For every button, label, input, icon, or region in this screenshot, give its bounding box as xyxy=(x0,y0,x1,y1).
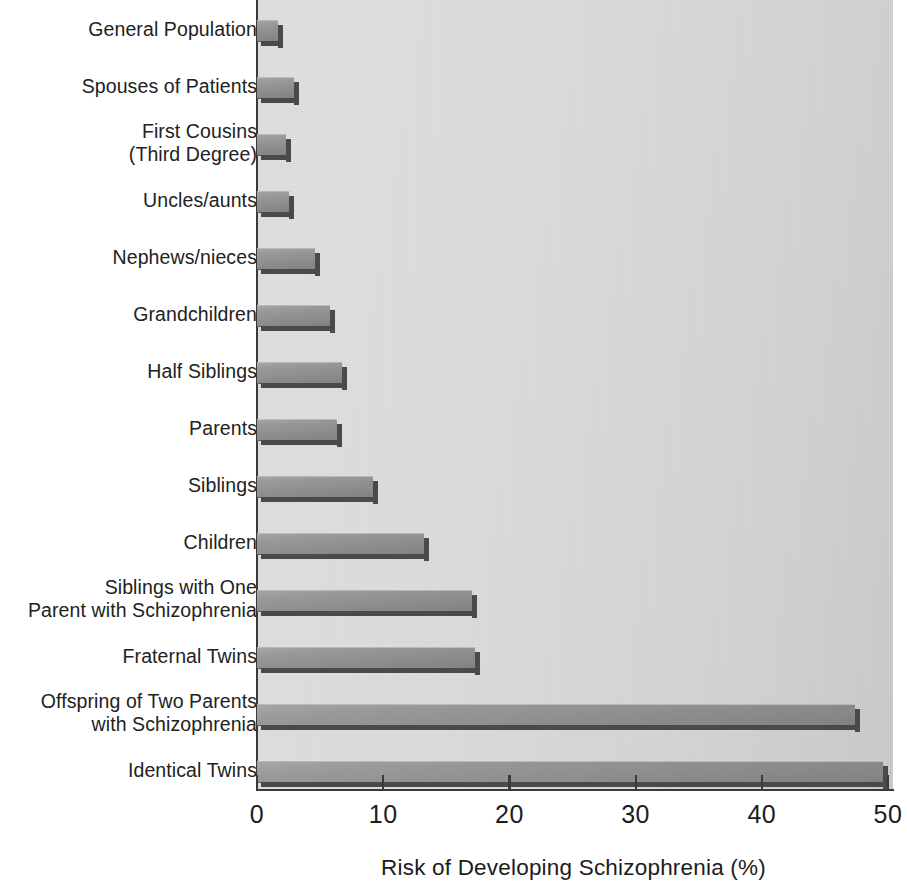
x-axis-tick-label: 40 xyxy=(747,800,776,829)
category-label: Uncles/aunts xyxy=(0,189,257,212)
x-axis-tick xyxy=(635,775,637,790)
bar-row: First Cousins (Third Degree) xyxy=(0,134,907,191)
bar xyxy=(257,704,855,726)
bar-rows: General PopulationSpouses of PatientsFir… xyxy=(0,0,907,790)
bar-row: Uncles/aunts xyxy=(0,191,907,248)
bar xyxy=(257,533,424,555)
bar-fill xyxy=(257,77,294,99)
bar-fill xyxy=(257,20,278,42)
bar xyxy=(257,419,337,441)
x-axis-tick-label: 30 xyxy=(621,800,650,829)
bar xyxy=(257,362,342,384)
category-label: Fraternal Twins xyxy=(0,645,257,668)
x-axis-tick xyxy=(508,775,510,790)
x-axis-tick-label: 0 xyxy=(250,800,264,829)
category-label: Offspring of Two Parents with Schizophre… xyxy=(0,690,257,736)
bar-fill xyxy=(257,419,337,441)
category-label: First Cousins (Third Degree) xyxy=(0,120,257,166)
x-axis-tick xyxy=(887,775,889,790)
category-label: Parents xyxy=(0,417,257,440)
x-axis-tick xyxy=(382,775,384,790)
bar xyxy=(257,305,330,327)
bar xyxy=(257,647,475,669)
bar-row: Parents xyxy=(0,419,907,476)
bar-row: Nephews/nieces xyxy=(0,248,907,305)
bar xyxy=(257,761,883,783)
x-axis-tick-label: 20 xyxy=(495,800,524,829)
bar-fill xyxy=(257,134,286,156)
bar-fill xyxy=(257,248,315,270)
bar-fill xyxy=(257,761,883,783)
bar xyxy=(257,476,373,498)
category-label: Siblings with One Parent with Schizophre… xyxy=(0,576,257,622)
x-axis-tick xyxy=(256,775,258,790)
bar xyxy=(257,20,278,42)
bar xyxy=(257,590,472,612)
bar-row: Siblings xyxy=(0,476,907,533)
x-axis-tick-label: 50 xyxy=(874,800,903,829)
bar-row: Offspring of Two Parents with Schizophre… xyxy=(0,704,907,761)
category-label: Grandchildren xyxy=(0,303,257,326)
category-label: General Population xyxy=(0,18,257,41)
bar xyxy=(257,77,294,99)
bar-row: General Population xyxy=(0,20,907,77)
x-axis-tick-label: 10 xyxy=(369,800,398,829)
x-axis-title: Risk of Developing Schizophrenia (%) xyxy=(0,855,907,881)
x-axis-tick xyxy=(761,775,763,790)
bar-row: Siblings with One Parent with Schizophre… xyxy=(0,590,907,647)
bar-fill xyxy=(257,704,855,726)
category-label: Half Siblings xyxy=(0,360,257,383)
bar xyxy=(257,191,289,213)
category-label: Spouses of Patients xyxy=(0,75,257,98)
category-label: Identical Twins xyxy=(0,759,257,782)
category-label: Siblings xyxy=(0,474,257,497)
category-label: Nephews/nieces xyxy=(0,246,257,269)
bar-fill xyxy=(257,305,330,327)
bar-fill xyxy=(257,191,289,213)
bar xyxy=(257,134,286,156)
bar xyxy=(257,248,315,270)
bar-fill xyxy=(257,590,472,612)
bar-fill xyxy=(257,533,424,555)
bar-fill xyxy=(257,647,475,669)
bar-fill xyxy=(257,476,373,498)
category-label: Children xyxy=(0,531,257,554)
bar-chart-figure: General PopulationSpouses of PatientsFir… xyxy=(0,0,907,887)
bar-row: Grandchildren xyxy=(0,305,907,362)
bar-row: Half Siblings xyxy=(0,362,907,419)
x-axis-title-text: Risk of Developing Schizophrenia (%) xyxy=(141,855,766,881)
bar-fill xyxy=(257,362,342,384)
